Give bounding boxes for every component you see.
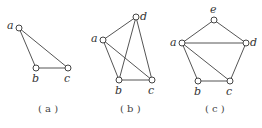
diagram-b: adbc( b ) [91,10,155,114]
edge-a-e [182,20,214,43]
vertex-b [195,78,201,84]
vertex-c [227,78,233,84]
edge-a-c [103,40,152,80]
diagram-caption: ( b ) [120,103,141,114]
diagram-caption: ( c ) [205,103,225,114]
vertex-d [133,14,139,20]
vertex-label-c: c [64,72,70,85]
vertex-label-d: d [140,10,147,23]
vertex-b [116,77,122,83]
edge-a-b [19,28,36,68]
vertex-a [100,37,106,43]
vertex-label-d: d [250,36,257,49]
vertex-label-a: a [170,36,177,49]
edge-d-c [136,17,152,80]
vertex-a [179,40,185,46]
vertex-c [149,77,155,83]
vertex-label-b: b [194,85,201,98]
diagram-caption: ( a ) [38,103,58,114]
vertex-label-b: b [115,84,122,97]
vertex-b [33,65,39,71]
vertex-d [243,40,249,46]
edge-e-d [214,20,246,43]
edge-d-c [230,43,246,81]
vertex-e [211,17,217,23]
diagram-a: abc( a ) [7,19,71,114]
vertex-label-c: c [226,85,232,98]
edge-a-c [19,28,68,68]
edge-a-c [182,43,230,81]
graph-diagrams: abc( a ) adbc( b ) eadbc( c ) [0,0,262,128]
vertex-a [16,25,22,31]
edge-b-d [119,17,136,80]
vertex-label-b: b [32,72,39,85]
vertex-label-a: a [91,32,98,45]
vertex-label-a: a [7,19,14,32]
vertex-label-e: e [210,3,217,16]
vertex-c [65,65,71,71]
diagram-c: eadbc( c ) [170,3,257,114]
vertex-label-c: c [148,84,154,97]
